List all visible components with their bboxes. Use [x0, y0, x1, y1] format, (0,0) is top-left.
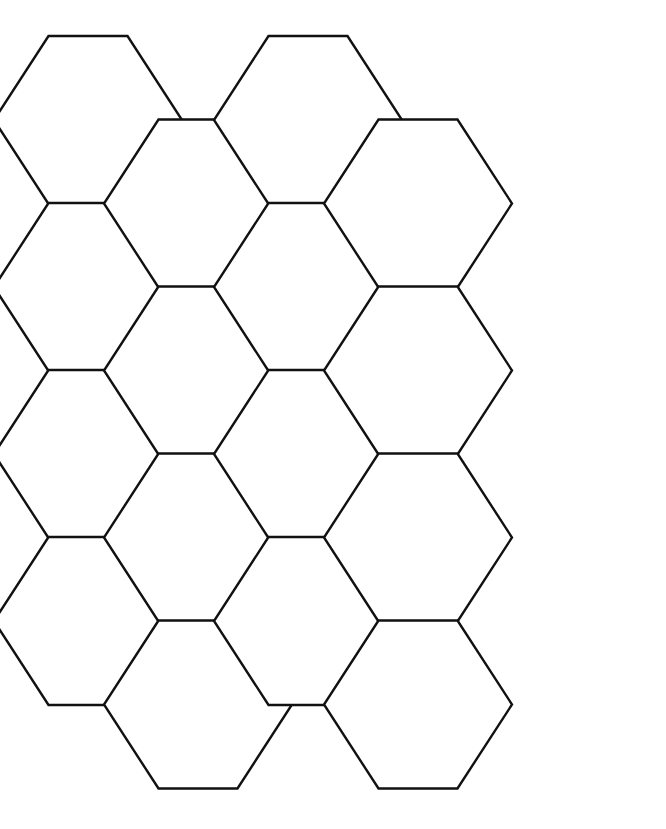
hexagon-group — [0, 36, 512, 789]
hexagon-grid-page — [0, 0, 666, 829]
hexagon-grid-canvas — [0, 0, 666, 829]
